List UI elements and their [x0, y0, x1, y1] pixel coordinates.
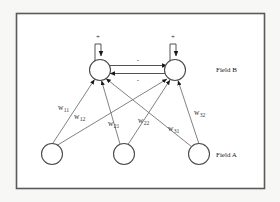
network-diagram: + + - - w11 w12 w21 w22 w31 w32: [0, 0, 280, 202]
field-a-node-3[interactable]: [189, 144, 210, 165]
field-a-label: Field A: [216, 151, 237, 159]
field-b-label: Field B: [216, 66, 237, 74]
sign-label-self-b1: +: [96, 33, 100, 41]
field-b-node-1[interactable]: [90, 60, 111, 81]
field-a-node-1[interactable]: [42, 144, 63, 165]
sign-label-self-b2: +: [171, 33, 175, 41]
figure-canvas: + + - - w11 w12 w21 w22 w31 w32: [0, 0, 280, 202]
field-b-node-2[interactable]: [165, 60, 186, 81]
field-a-node-2[interactable]: [114, 144, 135, 165]
